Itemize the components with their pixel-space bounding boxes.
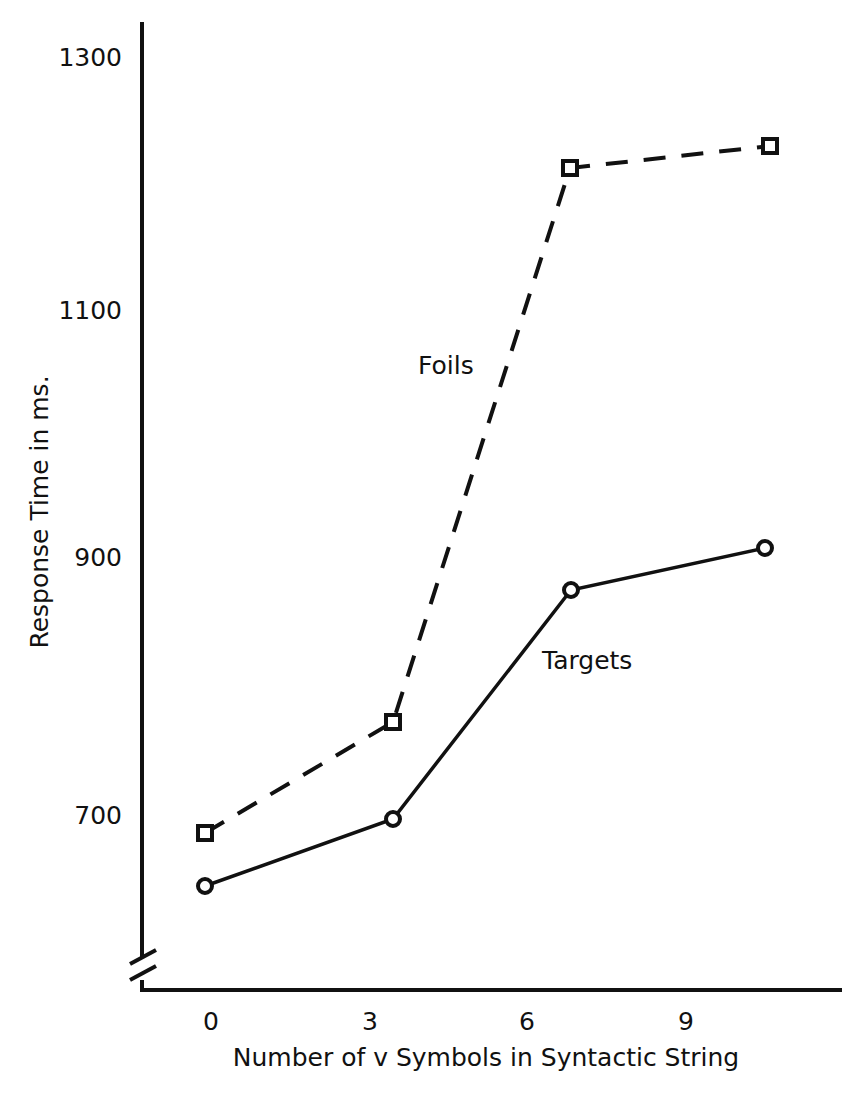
series-foils — [198, 139, 777, 840]
x-tick-label: 9 — [678, 1007, 694, 1036]
targets-line — [205, 548, 765, 886]
circle-marker-icon — [564, 583, 578, 597]
square-marker-icon — [763, 139, 777, 153]
y-axis-title: Response Time in ms. — [25, 375, 54, 648]
circle-marker-icon — [198, 879, 212, 893]
line-chart: 1300 1100 900 700 0 3 6 9 Number of v Sy… — [0, 0, 864, 1094]
series-label-targets: Targets — [541, 646, 632, 675]
x-tick-label: 0 — [203, 1007, 219, 1036]
y-tick-label: 1100 — [58, 296, 122, 325]
series-label-foils: Foils — [418, 351, 474, 380]
circle-marker-icon — [386, 812, 400, 826]
square-marker-icon — [563, 161, 577, 175]
y-tick-label: 1300 — [58, 43, 122, 72]
x-tick-label: 6 — [519, 1007, 535, 1036]
x-tick-label: 3 — [362, 1007, 378, 1036]
y-tick-label: 900 — [74, 543, 122, 572]
y-tick-label: 700 — [74, 801, 122, 830]
square-marker-icon — [198, 826, 212, 840]
series-targets — [198, 541, 772, 893]
x-axis-title: Number of v Symbols in Syntactic String — [233, 1043, 739, 1072]
circle-marker-icon — [758, 541, 772, 555]
foils-line — [205, 146, 770, 833]
square-marker-icon — [386, 715, 400, 729]
